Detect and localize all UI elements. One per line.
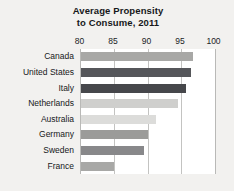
category-label-netherlands: Netherlands bbox=[28, 99, 74, 108]
bar-france bbox=[81, 162, 115, 171]
chart-title: Average Propensity to Consume, 2011 bbox=[56, 5, 180, 28]
bar-fill bbox=[81, 99, 178, 108]
bar-fill bbox=[81, 52, 194, 61]
category-label-france: France bbox=[48, 162, 74, 171]
bar-fill bbox=[81, 162, 115, 171]
bar-italy bbox=[81, 84, 187, 93]
chart-figure: Average Propensity to Consume, 2011 8085… bbox=[0, 0, 234, 191]
bar-fill bbox=[81, 130, 148, 139]
category-label-canada: Canada bbox=[44, 52, 74, 61]
x-tick-label-85: 85 bbox=[108, 36, 117, 46]
bar-sweden bbox=[81, 146, 145, 155]
chart-title-line-2: to Consume, 2011 bbox=[56, 17, 180, 29]
x-tick-label-80: 80 bbox=[75, 36, 84, 46]
bar-fill bbox=[81, 68, 192, 77]
bar-fill bbox=[81, 115, 157, 124]
plot-area bbox=[80, 49, 216, 174]
category-label-australia: Australia bbox=[41, 115, 74, 124]
category-label-germany: Germany bbox=[39, 130, 74, 139]
category-label-united-states: United States bbox=[23, 68, 74, 77]
bar-united-states bbox=[81, 68, 192, 77]
x-tick-label-90: 90 bbox=[142, 36, 151, 46]
category-label-italy: Italy bbox=[58, 84, 74, 93]
bar-netherlands bbox=[81, 99, 178, 108]
x-axis-tick-labels: 80859095100 bbox=[0, 36, 234, 48]
bar-australia bbox=[81, 115, 157, 124]
x-tick-label-100: 100 bbox=[206, 36, 220, 46]
chart-title-line-1: Average Propensity bbox=[56, 5, 180, 17]
bar-fill bbox=[81, 146, 145, 155]
bar-fill bbox=[81, 84, 187, 93]
category-label-sweden: Sweden bbox=[43, 146, 74, 155]
x-tick-label-95: 95 bbox=[175, 36, 184, 46]
bar-germany bbox=[81, 130, 148, 139]
bar-canada bbox=[81, 52, 194, 61]
y-axis-category-labels: CanadaUnited StatesItalyNetherlandsAustr… bbox=[0, 49, 76, 174]
